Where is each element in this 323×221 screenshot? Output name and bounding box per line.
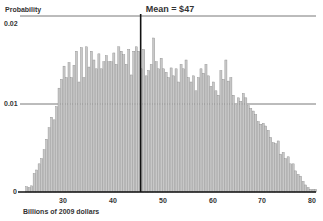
- y-tick-label-0: 0: [13, 188, 17, 195]
- histogram-bar: [212, 82, 214, 192]
- histogram-bar: [73, 65, 75, 192]
- histogram-bar: [250, 108, 252, 192]
- histogram-bar: [173, 76, 175, 192]
- histogram-bar: [192, 76, 194, 192]
- histogram-bar: [103, 62, 105, 192]
- histogram-bar: [267, 130, 269, 192]
- histogram-bar: [222, 79, 224, 192]
- histogram-bar: [275, 144, 277, 192]
- histogram-bar: [202, 73, 204, 192]
- histogram-bar: [215, 91, 217, 192]
- x-axis-title: Billions of 2009 dollars: [23, 208, 99, 215]
- histogram-bar: [260, 124, 262, 192]
- histogram-bar: [56, 107, 58, 192]
- histogram-bar: [247, 106, 249, 192]
- histogram-bar: [245, 98, 247, 192]
- histogram-bar: [108, 62, 110, 192]
- histogram-bar: [58, 88, 60, 192]
- histogram-bar: [270, 137, 272, 192]
- histogram-bar: [65, 78, 67, 192]
- histogram-bar: [207, 76, 209, 192]
- histogram-bar: [285, 159, 287, 192]
- plot-area: [0, 0, 323, 221]
- mean-annotation-label: Mean = $47: [146, 4, 194, 14]
- histogram-bar: [98, 54, 100, 192]
- histogram-bar: [217, 95, 219, 192]
- histogram-bar: [155, 62, 157, 192]
- histogram-bar: [90, 51, 92, 192]
- histogram-bar: [272, 143, 274, 192]
- x-tick-label-30: 30: [59, 197, 67, 204]
- histogram-bar: [175, 69, 177, 192]
- x-tick-label-70: 70: [258, 197, 266, 204]
- histogram-bar: [61, 79, 63, 192]
- histogram-bar: [297, 174, 299, 192]
- histogram-bar: [163, 69, 165, 192]
- histogram-bar: [41, 159, 43, 192]
- y-tick-label-001: 0.01: [4, 100, 18, 107]
- histogram-bar: [165, 72, 167, 192]
- histogram-bar: [235, 106, 237, 192]
- histogram-bar: [210, 86, 212, 192]
- histogram-bar: [265, 126, 267, 192]
- histogram-bar: [118, 47, 120, 192]
- histogram-bar: [51, 117, 53, 192]
- histogram-bar: [237, 98, 239, 192]
- histogram-bar: [33, 174, 35, 192]
- probability-histogram-chart: Probability 0.02 0.01 0 30 40 50 60 70 8…: [0, 0, 323, 221]
- histogram-bar: [80, 48, 82, 192]
- histogram-bar: [305, 185, 307, 192]
- histogram-bar: [36, 170, 38, 192]
- histogram-bar: [180, 64, 182, 192]
- histogram-bar: [292, 164, 294, 192]
- histogram-bar: [262, 123, 264, 192]
- x-tick-label-40: 40: [109, 197, 117, 204]
- histogram-bar: [78, 82, 80, 192]
- histogram-bar: [85, 47, 87, 192]
- histogram-bar: [38, 164, 40, 192]
- histogram-bar: [113, 53, 115, 192]
- histogram-bar: [133, 51, 135, 192]
- histogram-bar: [242, 93, 244, 192]
- histogram-bar: [295, 171, 297, 192]
- x-tick-label-50: 50: [159, 197, 167, 204]
- histogram-bar: [178, 82, 180, 192]
- histogram-bar: [225, 60, 227, 192]
- histogram-bar: [130, 75, 132, 192]
- histogram-bar: [200, 69, 202, 192]
- histogram-bar: [257, 122, 259, 192]
- y-tick-label-002: 0.02: [4, 20, 18, 27]
- histogram-bar: [115, 64, 117, 192]
- histogram-bar: [123, 55, 125, 192]
- histogram-bar: [43, 150, 45, 192]
- histogram-bar: [138, 51, 140, 192]
- x-tick-label-60: 60: [209, 197, 217, 204]
- histogram-bar: [227, 81, 229, 192]
- y-axis-title: Probability: [5, 6, 41, 13]
- histogram-bar: [68, 63, 70, 192]
- histogram-bar: [135, 47, 137, 192]
- histogram-bar: [220, 71, 222, 192]
- histogram-bar: [46, 139, 48, 192]
- histogram-bar: [70, 78, 72, 192]
- histogram-bar: [125, 64, 127, 192]
- histogram-bar: [170, 68, 172, 192]
- histogram-bar: [153, 38, 155, 192]
- histogram-bar: [120, 51, 122, 192]
- histogram-bar: [232, 95, 234, 192]
- histogram-bar: [100, 69, 102, 192]
- histogram-bar: [95, 69, 97, 192]
- histogram-bar: [205, 64, 207, 192]
- histogram-bar: [197, 78, 199, 192]
- histogram-bar: [230, 78, 232, 192]
- x-tick-label-80: 80: [308, 197, 316, 204]
- histogram-bar: [287, 157, 289, 192]
- histogram-bar: [110, 62, 112, 192]
- histogram-bar: [195, 91, 197, 192]
- histogram-bar: [300, 176, 302, 192]
- histogram-bar: [190, 82, 192, 192]
- histogram-bar: [143, 49, 145, 192]
- histogram-bar: [88, 67, 90, 192]
- histogram-bar: [53, 120, 55, 192]
- histogram-bar: [160, 58, 162, 192]
